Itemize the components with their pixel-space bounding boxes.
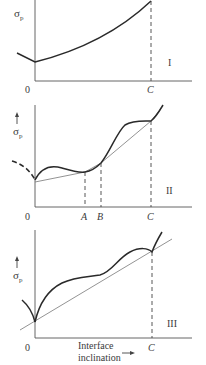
- y-axis-label: σp: [13, 125, 23, 140]
- origin-label: 0: [25, 211, 30, 222]
- arrow-head-icon: [130, 351, 135, 355]
- tangent-line: [20, 239, 172, 330]
- x-axis-label-line1: Interface: [78, 340, 114, 351]
- marker-label-c: C: [147, 211, 154, 222]
- marker-label-c: C: [148, 342, 155, 353]
- marker-label-c: C: [147, 84, 154, 95]
- panel-label: II: [166, 185, 173, 196]
- energy-curve: [35, 105, 163, 180]
- y-axis-label: σp: [13, 269, 23, 284]
- origin-label: 0: [25, 342, 30, 353]
- panel-label: I: [168, 57, 171, 68]
- panel-2: σp 0 A B C II: [12, 105, 192, 222]
- y-axis-label: σp: [14, 7, 24, 22]
- arrow-head-icon: [15, 256, 19, 261]
- marker-label-a: A: [80, 211, 88, 222]
- origin-label: 0: [25, 84, 30, 95]
- panel-1: σp 0 C I: [14, 0, 192, 95]
- panel-3: σp 0 C III Interface inclination: [13, 230, 192, 363]
- x-axis-label-line2: inclination: [78, 352, 121, 363]
- arrow-head-icon: [15, 112, 19, 117]
- panel-label: III: [167, 318, 177, 329]
- energy-curve: [17, 1, 151, 62]
- marker-label-b: B: [97, 211, 103, 222]
- dashed-branch: [12, 161, 35, 180]
- figure-canvas: σp 0 C I σp 0 A B C II σp: [0, 0, 206, 365]
- left-branch: [22, 300, 35, 322]
- energy-curve: [35, 232, 162, 322]
